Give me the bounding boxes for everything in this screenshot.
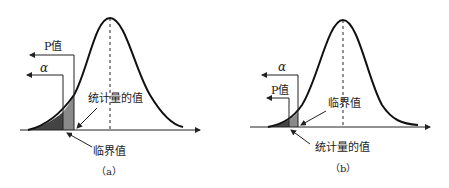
p-value-label: P值 — [44, 40, 62, 53]
statistic-value-label: 统计量的值 — [88, 91, 143, 105]
alpha-label: α — [278, 60, 286, 74]
statistic-value-pointer — [291, 130, 310, 144]
critical-value-label: 临界值 — [93, 144, 126, 158]
hypothesis-test-figure: P值 α 统计量的值 临界值 （a） α P值 临界值 统计量的值 （b） — [0, 0, 449, 188]
statistic-value-pointer — [77, 108, 97, 128]
caption-b: （b） — [330, 163, 356, 174]
p-extra-region-shade — [63, 95, 74, 130]
alpha-label: α — [40, 61, 48, 75]
normal-curve — [28, 18, 183, 130]
critical-value-label: 临界值 — [328, 96, 361, 110]
critical-value-pointer — [301, 111, 326, 125]
panel-b: α P值 临界值 统计量的值 （b） — [250, 20, 430, 174]
p-value-label: P值 — [271, 84, 289, 97]
statistic-value-label: 统计量的值 — [315, 140, 370, 154]
critical-value-pointer — [67, 133, 92, 147]
panel-a: P值 α 统计量的值 临界值 （a） — [20, 18, 200, 177]
caption-a: （a） — [96, 166, 122, 177]
